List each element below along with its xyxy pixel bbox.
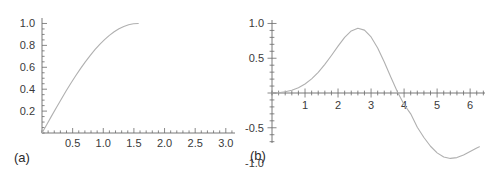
- plot-a-curve: [42, 23, 138, 133]
- panel-a-label: (a): [14, 150, 30, 165]
- svg-text:2.0: 2.0: [157, 137, 172, 149]
- svg-text:1.0: 1.0: [249, 17, 264, 29]
- svg-text:0.4: 0.4: [20, 83, 35, 95]
- svg-text:1.0: 1.0: [96, 137, 111, 149]
- plot-a-y-tick-labels: 0.20.40.60.81.0: [20, 17, 35, 117]
- svg-text:0.5: 0.5: [65, 137, 80, 149]
- svg-text:3.0: 3.0: [218, 137, 233, 149]
- plot-b-canvas: 123456 -1.0-0.50.51.0: [245, 0, 489, 175]
- two-panel-figure: 0.51.01.52.02.53.0 0.20.40.60.81.0 (a) 1…: [0, 0, 489, 175]
- panel-a: 0.51.01.52.02.53.0 0.20.40.60.81.0 (a): [0, 0, 244, 175]
- svg-text:6: 6: [467, 99, 473, 111]
- svg-text:2: 2: [335, 99, 341, 111]
- svg-text:1.5: 1.5: [126, 137, 141, 149]
- plot-b-x-tick-labels: 123456: [302, 99, 473, 111]
- plot-a-x-ticks: [42, 128, 232, 133]
- panel-b: 123456 -1.0-0.50.51.0 (b): [245, 0, 489, 175]
- panel-b-label: (b): [250, 148, 266, 163]
- plot-a-x-tick-labels: 0.51.01.52.02.53.0: [65, 137, 233, 149]
- plot-a-canvas: 0.51.01.52.02.53.0 0.20.40.60.81.0: [0, 0, 244, 175]
- plot-a-axes: [42, 18, 235, 133]
- svg-text:0.8: 0.8: [20, 39, 35, 51]
- plot-b-y-tick-labels: -1.0-0.50.51.0: [245, 17, 264, 168]
- svg-text:3: 3: [368, 99, 374, 111]
- plot-a-y-ticks: [42, 23, 47, 133]
- svg-text:1: 1: [302, 99, 308, 111]
- svg-text:0.6: 0.6: [20, 61, 35, 73]
- svg-text:2.5: 2.5: [188, 137, 203, 149]
- plot-b-axes: [272, 20, 485, 143]
- svg-text:-0.5: -0.5: [245, 122, 264, 134]
- svg-text:5: 5: [434, 99, 440, 111]
- svg-text:0.2: 0.2: [20, 105, 35, 117]
- svg-text:1.0: 1.0: [20, 17, 35, 29]
- svg-text:0.5: 0.5: [249, 52, 264, 64]
